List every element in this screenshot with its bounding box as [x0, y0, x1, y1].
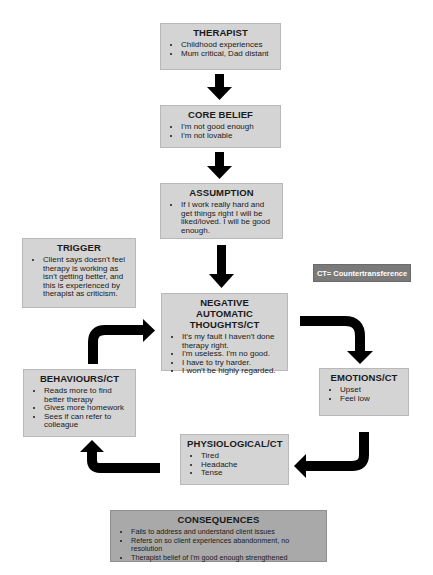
- list-item: Reads more to find better therapy: [44, 387, 129, 404]
- negative-automatic-thoughts-list: It's my fault I haven't done therapy rig…: [168, 333, 281, 376]
- emotions-title: EMOTIONS/CT: [326, 372, 402, 383]
- curved-arrow-up-right-icon: [93, 319, 155, 364]
- list-item: If I work really hard and get things rig…: [181, 201, 276, 235]
- negative-automatic-thoughts-box: NEGATIVE AUTOMATIC THOUGHTS/CT It's my f…: [161, 293, 288, 371]
- list-item: Sees if can refer to colleague: [44, 413, 129, 430]
- therapist-box: THERAPIST Childhood experiences Mum crit…: [160, 23, 281, 70]
- list-item: Feel low: [340, 395, 402, 404]
- emotions-box: EMOTIONS/CT Upset Feel low: [319, 368, 409, 416]
- arrow-down-icon: [207, 152, 232, 179]
- trigger-list: Client says doesn't feel therapy is work…: [29, 256, 129, 299]
- therapist-list: Childhood experiences Mum critical, Dad …: [167, 41, 274, 58]
- trigger-box: TRIGGER Client says doesn't feel therapy…: [22, 238, 136, 308]
- behaviours-box: BEHAVIOURS/CT Reads more to find better …: [23, 369, 136, 437]
- curved-arrow-right-down-icon: [300, 321, 373, 364]
- assumption-box: ASSUMPTION If I work really hard and get…: [160, 183, 283, 239]
- list-item: Client says doesn't feel therapy is work…: [43, 256, 129, 299]
- list-item: Refers on so client experiences abandonm…: [131, 537, 320, 554]
- behaviours-title: BEHAVIOURS/CT: [30, 373, 129, 384]
- curved-arrow-left-up-icon: [80, 440, 160, 468]
- therapist-title: THERAPIST: [167, 27, 274, 38]
- arrow-down-icon: [207, 74, 232, 100]
- assumption-title: ASSUMPTION: [167, 187, 276, 198]
- core-belief-list: I'm not good enough I'm not lovable: [167, 123, 274, 140]
- trigger-title: TRIGGER: [29, 242, 129, 253]
- core-belief-box: CORE BELIEF I'm not good enough I'm not …: [160, 105, 281, 148]
- list-item: Therapist belief of I'm good enough stre…: [131, 554, 320, 563]
- list-item: It's my fault I haven't done therapy rig…: [182, 333, 281, 350]
- consequences-box: CONSEQUENCES Fails to address and unders…: [110, 510, 327, 562]
- list-item: Mum critical, Dad distant: [181, 50, 274, 59]
- physiological-title: PHYSIOLOGICAL/CT: [187, 438, 282, 449]
- behaviours-list: Reads more to find better therapy Gives …: [30, 387, 129, 430]
- list-item: I won't be highly regarded.: [182, 367, 281, 376]
- arrow-down-icon: [209, 245, 234, 288]
- list-item: I'm not lovable: [181, 132, 274, 141]
- physiological-box: PHYSIOLOGICAL/CT Tired Headache Tense: [180, 434, 289, 485]
- consequences-list: Fails to address and understand client i…: [117, 528, 320, 562]
- assumption-list: If I work really hard and get things rig…: [167, 201, 276, 235]
- core-belief-title: CORE BELIEF: [167, 109, 274, 120]
- physiological-list: Tired Headache Tense: [187, 452, 282, 478]
- curved-arrow-down-left-icon: [294, 432, 364, 478]
- consequences-title: CONSEQUENCES: [117, 514, 320, 525]
- emotions-list: Upset Feel low: [326, 386, 402, 403]
- negative-automatic-thoughts-title: NEGATIVE AUTOMATIC THOUGHTS/CT: [168, 297, 281, 330]
- list-item: Tense: [201, 469, 282, 478]
- countertransference-legend: CT= Countertransference: [313, 264, 411, 282]
